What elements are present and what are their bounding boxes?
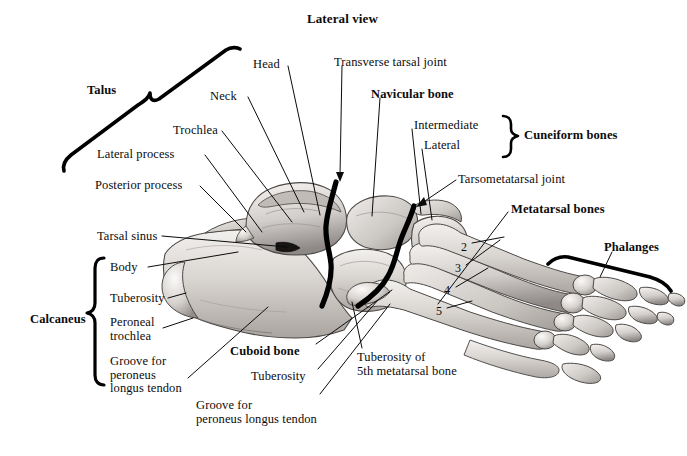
part-label-calcaneus-body: Body [110,261,138,275]
middle-phalanx-3 [628,306,657,324]
part-label-tarsal-sinus: Tarsal sinus [97,230,157,244]
part-label-peroneal-trochlea: Peroneal trochlea [110,316,155,343]
group-label-talus: Talus [87,84,116,98]
group-label-navicular-bone: Navicular bone [371,88,454,102]
leader-transverse-tarsal-joint [340,66,342,176]
part-label-groove-peroneus-calcaneus: Groove for peroneus longus tendon [110,355,182,396]
part-label-neck: Neck [210,90,237,104]
cuneiform-bracket [503,116,518,157]
group-label-cuneiform-bones: Cuneiform bones [524,129,618,143]
metatarsal-number-4: 4 [444,283,450,298]
metatarsal-number-3: 3 [455,261,461,276]
part-label-groove-peroneus-cuboid: Groove for peroneus longus tendon [196,399,317,426]
distal-phalanx-3 [657,312,674,325]
first-ray-phalanx [562,363,601,383]
part-label-cuneiform-intermediate: Intermediate [414,119,478,133]
part-label-transverse-tarsal-joint: Transverse tarsal joint [334,56,447,70]
distal-phalanx-2 [668,293,685,306]
leader-peroneal-trochlea [163,318,193,328]
part-label-calcaneus-tuberosity: Tuberosity [110,292,165,306]
part-label-head: Head [253,58,280,72]
part-label-tuberosity-5th-metatarsal: Tuberosity of 5th metatarsal bone [357,351,457,378]
anatomy-figure-foot-lateral: Lateral view Talus Calcaneus Cuneiform b… [0,0,687,456]
part-label-trochlea: Trochlea [173,124,218,138]
middle-phalanx-4 [615,324,641,342]
group-label-metatarsal-bones: Metatarsal bones [511,203,605,217]
proximal-phalanx-5 [553,334,589,355]
group-label-cuboid-bone: Cuboid bone [230,345,300,359]
part-label-cuneiform-lateral: Lateral [424,139,460,153]
middle-phalanx-2 [639,287,668,305]
metatarsal-head-5 [534,331,556,349]
leader-intermediate [412,129,421,214]
part-label-cuboid-tuberosity: Tuberosity [251,370,306,384]
metatarsal-head-3 [561,293,585,313]
group-label-calcaneus: Calcaneus [30,313,86,327]
calcaneus-bracket [87,258,104,385]
part-label-tarsometatarsal-joint: Tarsometatarsal joint [458,173,565,187]
metatarsal-number-5: 5 [436,304,442,319]
metatarsal-head-4 [554,313,576,331]
part-label-posterior-process: Posterior process [95,179,182,193]
part-label-lateral-process: Lateral process [97,148,175,162]
middle-phalanx-5 [590,344,614,361]
metatarsal-number-2: 2 [461,240,467,255]
figure-title: Lateral view [307,12,378,26]
group-label-phalanges: Phalanges [604,241,659,255]
